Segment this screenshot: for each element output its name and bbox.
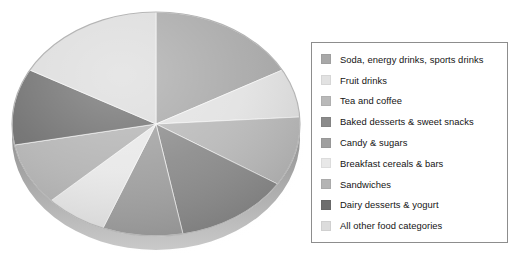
- legend-item[interactable]: Baked desserts & sweet snacks: [312, 111, 507, 132]
- legend-swatch-icon: [321, 179, 331, 189]
- legend-item[interactable]: Soda, energy drinks, sports drinks: [312, 49, 507, 70]
- legend-item[interactable]: All other food categories: [312, 215, 507, 236]
- pie-chart-svg: [4, 2, 304, 254]
- legend-item-label: Soda, energy drinks, sports drinks: [340, 54, 483, 65]
- legend-swatch-icon: [321, 75, 331, 85]
- legend-swatch-icon: [321, 54, 331, 64]
- legend-item-label: Candy & sugars: [340, 137, 407, 148]
- legend-item[interactable]: Dairy desserts & yogurt: [312, 194, 507, 215]
- legend-swatch-icon: [321, 138, 331, 148]
- legend-item-label: Dairy desserts & yogurt: [340, 199, 439, 210]
- legend-swatch-icon: [321, 117, 331, 127]
- legend-item-label: Fruit drinks: [340, 75, 387, 86]
- pie-chart-container: [4, 2, 304, 254]
- legend-item-label: Tea and coffee: [340, 95, 402, 106]
- legend-swatch-icon: [321, 158, 331, 168]
- legend-swatch-icon: [321, 96, 331, 106]
- legend-item[interactable]: Breakfast cereals & bars: [312, 153, 507, 174]
- legend-item-label: Sandwiches: [340, 179, 391, 190]
- legend-item[interactable]: Candy & sugars: [312, 132, 507, 153]
- legend-item[interactable]: Tea and coffee: [312, 91, 507, 112]
- legend-item[interactable]: Fruit drinks: [312, 70, 507, 91]
- pie-slices: [12, 12, 300, 236]
- legend-list: Soda, energy drinks, sports drinksFruit …: [312, 49, 507, 236]
- chart-legend: Soda, energy drinks, sports drinksFruit …: [311, 42, 508, 243]
- legend-item-label: Breakfast cereals & bars: [340, 158, 443, 169]
- legend-item[interactable]: Sandwiches: [312, 174, 507, 195]
- legend-item-label: All other food categories: [340, 220, 442, 231]
- legend-swatch-icon: [321, 221, 331, 231]
- pie-chart-figure: Soda, energy drinks, sports drinksFruit …: [0, 0, 519, 256]
- legend-swatch-icon: [321, 200, 331, 210]
- legend-item-label: Baked desserts & sweet snacks: [340, 116, 474, 127]
